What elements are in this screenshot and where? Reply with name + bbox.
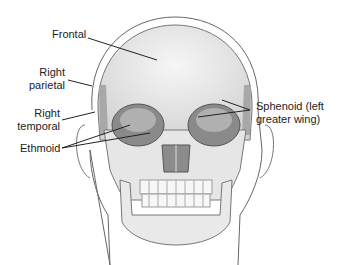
temporal-leader (62, 112, 95, 120)
label-sphenoid-line2: greater wing) (256, 113, 324, 126)
label-right-temporal-line1: Right (10, 107, 60, 120)
label-right-temporal-line2: temporal (10, 120, 60, 133)
label-right-parietal-line2: parietal (15, 79, 65, 92)
label-right-parietal: Right parietal (15, 66, 65, 92)
label-ethmoid: Ethmoid (20, 142, 60, 155)
label-right-temporal: Right temporal (10, 107, 60, 133)
label-sphenoid: Sphenoid (left greater wing) (256, 100, 324, 126)
label-sphenoid-line1: Sphenoid (left (256, 100, 324, 113)
label-frontal: Frontal (52, 28, 86, 41)
parietal-leader (68, 80, 92, 86)
label-right-parietal-line1: Right (15, 66, 65, 79)
